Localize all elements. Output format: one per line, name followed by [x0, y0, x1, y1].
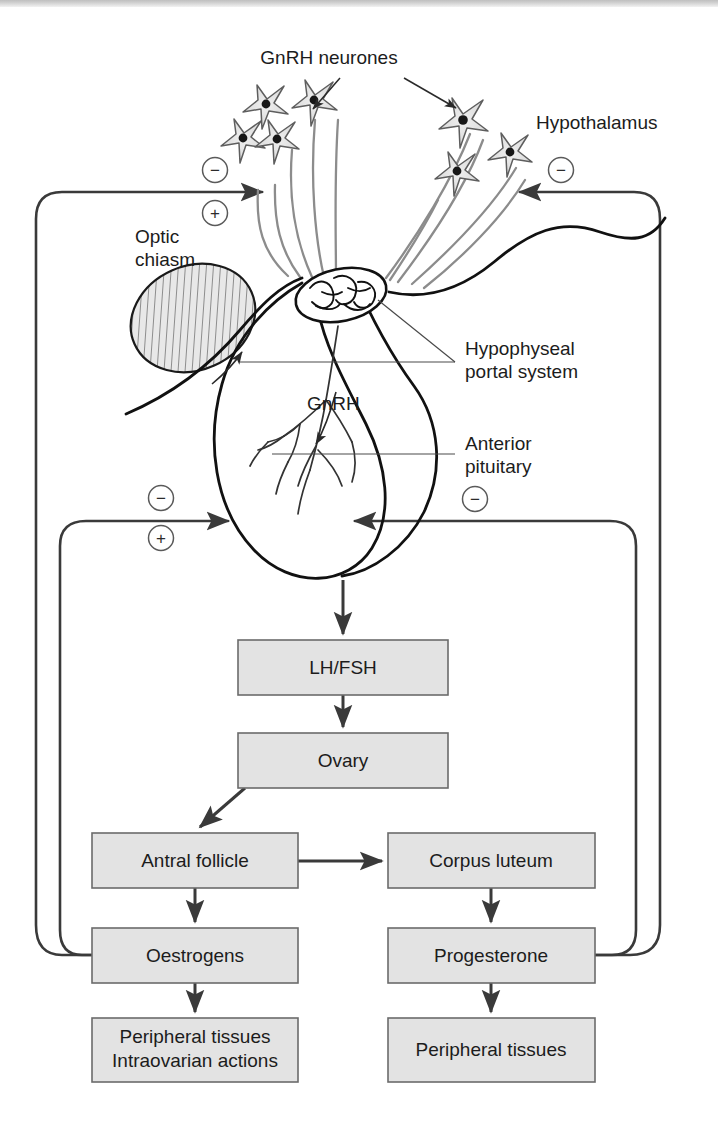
flow-box-peripheral-tissues-intraovarian[interactable]: Peripheral tissues Intraovarian actions — [92, 1018, 298, 1082]
neurone-cell-3 — [221, 119, 265, 163]
sign-left-upper-negative: − — [203, 158, 228, 183]
neurone-cell-bodies — [221, 80, 532, 196]
label-hypophyseal-portal-line2: portal system — [465, 361, 578, 382]
arrow-ovary-to-antral-follicle — [200, 788, 245, 827]
flow-box-antral-follicle[interactable]: Antral follicle — [92, 833, 298, 888]
label-anterior-pituitary-line1: Anterior — [465, 433, 532, 454]
loop-oestrogens-to-pituitary-path — [60, 521, 228, 955]
sign-left-lower-negative-glyph: − — [156, 489, 166, 508]
flow-box-peripheral-tissues-label: Peripheral tissues — [415, 1039, 566, 1060]
flow-box-oestrogens[interactable]: Oestrogens — [92, 928, 298, 983]
flow-box-ovary-label: Ovary — [318, 750, 369, 771]
label-optic-chiasm-line2: chiasm — [135, 249, 195, 270]
flow-box-lh-fsh[interactable]: LH/FSH — [238, 640, 448, 695]
hpo-axis-diagram: − + − − + − — [0, 0, 718, 1125]
sign-left-upper-positive: + — [203, 201, 228, 226]
diagram-canvas: − + − − + − — [0, 0, 718, 1125]
flow-box-corpus-luteum[interactable]: Corpus luteum — [388, 833, 595, 888]
hypophyseal-portal-vessels — [250, 326, 355, 514]
sign-left-lower-positive-glyph: + — [156, 529, 166, 548]
neurone-cell-6 — [435, 152, 479, 196]
flow-box-corpus-luteum-label: Corpus luteum — [429, 850, 553, 871]
neurone-cell-7 — [488, 133, 532, 177]
neurone-cell-5 — [439, 98, 488, 148]
sign-left-lower-negative: − — [149, 486, 174, 511]
sign-left-upper-negative-glyph: − — [210, 161, 220, 180]
sign-right-lower-negative: − — [463, 487, 488, 512]
flow-box-ovary[interactable]: Ovary — [238, 733, 448, 788]
label-optic-chiasm-line1: Optic — [135, 226, 179, 247]
flow-box-lh-fsh-label: LH/FSH — [309, 657, 377, 678]
flow-box-peripheral-tissues-intraovarian-label-line2: Intraovarian actions — [112, 1050, 278, 1071]
sign-left-lower-positive: + — [149, 526, 174, 551]
sign-right-upper-negative-glyph: − — [556, 161, 566, 180]
median-eminence-plexus — [291, 260, 392, 330]
gnrh-label-leader-arrows — [313, 78, 456, 109]
label-gnrh: GnRH — [307, 393, 360, 414]
label-hypothalamus: Hypothalamus — [536, 112, 657, 133]
label-gnrh-neurones: GnRH neurones — [260, 47, 397, 68]
sign-left-upper-positive-glyph: + — [210, 204, 220, 223]
label-leader-lines — [240, 300, 455, 454]
flow-box-peripheral-tissues-intraovarian-label-line1: Peripheral tissues — [119, 1026, 270, 1047]
flow-box-antral-follicle-label: Antral follicle — [141, 850, 249, 871]
flow-box-progesterone[interactable]: Progesterone — [388, 928, 595, 983]
sign-right-lower-negative-glyph: − — [470, 490, 480, 509]
flow-box-oestrogens-label: Oestrogens — [146, 945, 244, 966]
flow-box-peripheral-tissues[interactable]: Peripheral tissues — [388, 1018, 595, 1082]
neurone-cell-1 — [243, 85, 288, 129]
label-anterior-pituitary-line2: pituitary — [465, 456, 532, 477]
flow-box-progesterone-label: Progesterone — [434, 945, 548, 966]
sign-right-upper-negative: − — [549, 158, 574, 183]
label-hypophyseal-portal-line1: Hypophyseal — [465, 338, 575, 359]
gnrh-neurone-group — [221, 78, 532, 288]
